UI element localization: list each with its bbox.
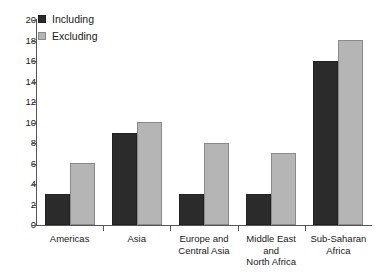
y-axis-tick-mark <box>32 143 36 144</box>
bar-including-americas <box>45 194 70 225</box>
y-axis-tick-mark <box>32 225 36 226</box>
y-axis-tick-mark <box>32 123 36 124</box>
x-axis-category-label: Middle EastandNorth Africa <box>234 233 309 268</box>
x-axis-category-label: Europe andCentral Asia <box>166 233 241 256</box>
y-axis-tick-mark <box>32 61 36 62</box>
y-axis-tick-label: 18 <box>0 35 36 47</box>
y-axis-tick-label: 10 <box>0 117 36 129</box>
legend-swatch-icon <box>38 32 46 40</box>
bar-excluding-europe-and-central-asia <box>204 143 229 225</box>
category-label-line: Africa <box>301 245 376 257</box>
category-label-line: Middle East <box>234 233 309 245</box>
bar-excluding-sub-saharan-africa <box>338 40 363 225</box>
y-axis-tick-label: 0 <box>0 219 36 231</box>
category-label-line: Sub-Saharan <box>301 233 376 245</box>
bar-including-asia <box>112 133 137 225</box>
bar-chart: 02468101214161820 AmericasAsiaEurope and… <box>0 0 380 278</box>
x-axis-tick-mark <box>238 226 239 231</box>
category-label-line: Asia <box>99 233 174 245</box>
y-axis-tick-label: 6 <box>0 158 36 170</box>
y-axis-tick-mark <box>32 41 36 42</box>
category-label-line: and <box>234 245 309 257</box>
y-axis-tick-label: 14 <box>0 76 36 88</box>
legend-item-label: Including <box>52 13 94 25</box>
x-axis-tick-mark <box>103 226 104 231</box>
bar-excluding-middle-east-and-north-africa <box>271 153 296 225</box>
category-label-line: Americas <box>32 233 107 245</box>
legend-item-excluding[interactable]: Excluding <box>38 28 98 43</box>
legend-item-label: Excluding <box>52 30 98 42</box>
y-axis-tick-label: 2 <box>0 199 36 211</box>
y-axis-tick-label: 8 <box>0 137 36 149</box>
bar-including-sub-saharan-africa <box>313 61 338 225</box>
y-axis-tick-label: 16 <box>0 55 36 67</box>
y-axis-tick-label: 12 <box>0 96 36 108</box>
y-axis-tick-label: 4 <box>0 178 36 190</box>
bar-including-europe-and-central-asia <box>179 194 204 225</box>
category-label-line: North Africa <box>234 256 309 268</box>
bar-excluding-asia <box>137 122 162 225</box>
category-label-line: Central Asia <box>166 245 241 257</box>
y-axis-tick-label: 20 <box>0 14 36 26</box>
bar-including-middle-east-and-north-africa <box>246 194 271 225</box>
x-axis-tick-mark <box>170 226 171 231</box>
x-axis-category-label: Americas <box>32 233 107 245</box>
y-axis-tick-mark <box>32 184 36 185</box>
legend-swatch-icon <box>38 15 46 23</box>
legend-item-including[interactable]: Including <box>38 11 98 26</box>
y-axis-line <box>36 19 37 226</box>
bar-excluding-americas <box>70 163 95 225</box>
y-axis-tick-mark <box>32 102 36 103</box>
y-axis-tick-mark <box>32 205 36 206</box>
x-axis-line <box>36 225 372 226</box>
y-axis-tick-mark <box>32 20 36 21</box>
y-axis-tick-mark <box>32 164 36 165</box>
legend: IncludingExcluding <box>38 11 98 45</box>
x-axis-category-label: Sub-SaharanAfrica <box>301 233 376 256</box>
x-axis-tick-mark <box>305 226 306 231</box>
category-label-line: Europe and <box>166 233 241 245</box>
x-axis-category-label: Asia <box>99 233 174 245</box>
y-axis-tick-mark <box>32 82 36 83</box>
